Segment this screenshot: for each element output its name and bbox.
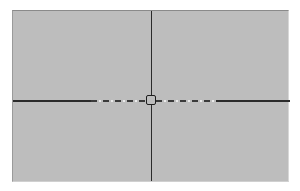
horizontal-guide-right-dashed (156, 100, 216, 102)
horizontal-guide-left-solid (13, 100, 91, 102)
horizontal-guide-left-dashed (91, 100, 146, 102)
crosshair-center-handle[interactable] (146, 95, 156, 105)
canvas-panel[interactable] (12, 10, 289, 182)
horizontal-guide-right-solid (216, 100, 290, 102)
